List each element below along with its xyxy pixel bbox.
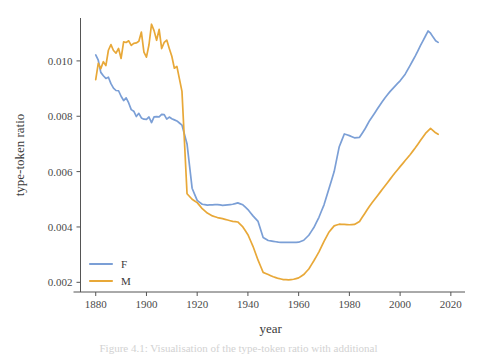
x-axis-title: year	[260, 321, 283, 336]
x-tick-label: 1960	[288, 298, 311, 310]
y-tick-label: 0.010	[48, 55, 73, 67]
x-tick-label: 1880	[85, 298, 108, 310]
x-tick-label: 2020	[440, 298, 463, 310]
x-tick-label: 1900	[135, 298, 158, 310]
y-tick-label: 0.002	[48, 276, 73, 288]
figure-caption: Figure 4.1: Visualisation of the type-to…	[0, 342, 477, 354]
x-tick-label: 1940	[237, 298, 260, 310]
legend-label-f: F	[121, 258, 127, 270]
y-tick-label: 0.004	[48, 221, 73, 233]
y-tick-label: 0.006	[48, 166, 73, 178]
x-tick-label: 1980	[338, 298, 361, 310]
x-tick-label: 1920	[186, 298, 209, 310]
y-tick-label: 0.008	[48, 110, 73, 122]
legend-label-m: M	[121, 275, 131, 287]
y-axis-title: type-token ratio	[12, 114, 27, 197]
x-tick-label: 2000	[389, 298, 412, 310]
